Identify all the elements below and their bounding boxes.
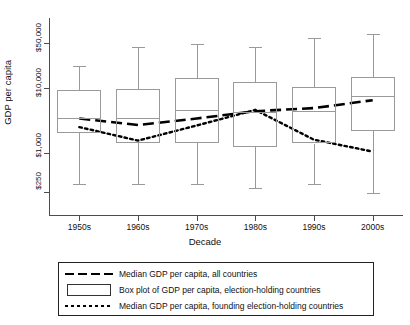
legend-item-boxplot: Box plot of GDP per capita, election-hol…: [59, 282, 375, 298]
x-axis-title: Decade: [0, 236, 410, 247]
boxplot-cap-upper: [308, 38, 321, 39]
boxplot-box: [57, 90, 101, 133]
boxplot-median-line: [175, 110, 219, 111]
legend: Median GDP per capita, all countries Box…: [58, 262, 374, 316]
boxplot-whisker-upper: [79, 66, 80, 91]
y-axis-tick-label: $1,000: [34, 133, 43, 157]
boxplot-cap-lower: [73, 184, 86, 185]
boxplot-median-line: [351, 96, 395, 97]
boxplot-cap-lower: [308, 184, 321, 185]
boxplot-whisker-upper: [138, 47, 139, 88]
series-layer: [50, 18, 402, 215]
x-axis-tick-label: 1980s: [244, 222, 267, 232]
boxplot-whisker-upper: [197, 44, 198, 77]
boxplot-cap-lower: [191, 184, 204, 185]
boxplot-whisker-upper: [314, 38, 315, 86]
boxplot-whisker-upper: [373, 34, 374, 77]
boxplot-whisker-lower: [255, 147, 256, 188]
x-axis-tick: [255, 216, 256, 221]
dotted-line-icon: [65, 299, 113, 313]
x-axis-tick: [138, 216, 139, 221]
x-axis-tick-label: 1960s: [126, 222, 149, 232]
boxplot-median-line: [292, 111, 336, 112]
boxplot-median-line: [57, 118, 101, 119]
boxplot-median-line: [233, 112, 277, 113]
y-axis-line: [49, 18, 50, 216]
y-axis-tick-label: $50,000: [34, 23, 43, 52]
boxplot-whisker-lower: [314, 144, 315, 185]
y-axis-tick: [44, 88, 49, 89]
boxplot-whisker-lower: [138, 143, 139, 185]
plot-area: [50, 18, 402, 215]
y-axis-tick: [44, 192, 49, 193]
legend-label: Box plot of GDP per capita, election-hol…: [119, 285, 321, 295]
boxplot-cap-upper: [191, 44, 204, 45]
boxplot-cap-upper: [73, 66, 86, 67]
x-axis-tick: [79, 216, 80, 221]
x-axis-tick: [314, 216, 315, 221]
y-axis-title: GDP per capita: [2, 60, 13, 125]
boxplot-median-line: [116, 118, 160, 119]
boxplot-box: [351, 77, 395, 132]
boxplot-cap-upper: [367, 34, 380, 35]
x-axis-tick-label: 2000s: [361, 222, 384, 232]
boxplot-box: [116, 89, 160, 143]
x-axis-tick-label: 1950s: [68, 222, 91, 232]
boxplot-cap-upper: [249, 47, 262, 48]
boxplot-cap-lower: [367, 193, 380, 194]
y-axis-tick-label: $10,000: [34, 68, 43, 97]
legend-label: Median GDP per capita, founding election…: [119, 301, 343, 311]
dashed-line-icon: [65, 267, 113, 281]
boxplot-cap-upper: [132, 47, 145, 48]
box-rect-icon: [65, 283, 113, 297]
y-axis-tick: [44, 43, 49, 44]
legend-label: Median GDP per capita, all countries: [119, 269, 257, 279]
x-axis-tick-label: 1990s: [302, 222, 325, 232]
x-axis-tick: [373, 216, 374, 221]
y-axis-tick: [44, 153, 49, 154]
boxplot-box: [292, 87, 336, 144]
boxplot-box: [233, 82, 277, 147]
x-axis-line: [49, 215, 403, 216]
legend-item-median-founding: Median GDP per capita, founding election…: [59, 298, 375, 314]
boxplot-cap-lower: [132, 184, 145, 185]
chart-figure: GDP per capita Decade Median GDP per cap…: [0, 0, 410, 325]
boxplot-whisker-lower: [373, 131, 374, 193]
boxplot-whisker-lower: [79, 133, 80, 184]
x-axis-tick: [197, 216, 198, 221]
boxplot-whisker-upper: [255, 47, 256, 81]
boxplot-cap-lower: [249, 188, 262, 189]
boxplot-whisker-lower: [197, 143, 198, 185]
legend-item-median-all: Median GDP per capita, all countries: [59, 266, 375, 282]
x-axis-tick-label: 1970s: [185, 222, 208, 232]
y-axis-tick-label: $250: [34, 172, 43, 190]
